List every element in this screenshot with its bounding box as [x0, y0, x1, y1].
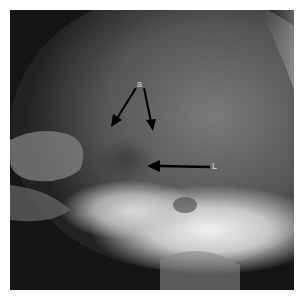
label-a: a: [137, 80, 142, 89]
xray-image: a L: [10, 10, 294, 290]
xray-graphic: [10, 10, 294, 290]
label-l: L: [212, 162, 217, 171]
